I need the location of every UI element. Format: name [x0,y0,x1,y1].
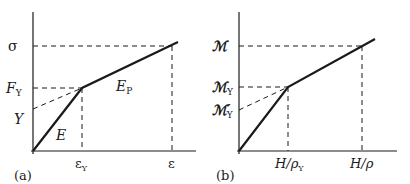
moment-curvature-curve [239,39,375,151]
label-M-prime-y: ℳ′Y [212,102,234,120]
panel-a: σ FY Y E EP εY ε (a) [5,12,196,183]
panel-tag-a: (a) [14,168,32,183]
label-My: ℳY [212,79,234,97]
mprime-intercept-extension [239,87,288,110]
bilinear-diagrams: σ FY Y E EP εY ε (a) ℳ ℳY ℳ′Y H/ρY H/ρ (… [0,0,410,184]
label-H-rho: H/ρ [349,156,374,171]
label-E: E [55,127,66,143]
label-y-intercept: Y [14,111,25,127]
label-M: ℳ [212,38,230,54]
label-fy: FY [5,80,23,98]
stress-strain-curve [33,42,178,151]
label-eps: ε [168,156,175,171]
label-eps-y: εY [75,156,88,173]
label-sigma: σ [8,38,18,54]
label-Ep: EP [115,78,132,96]
label-H-rho-y: H/ρY [274,156,304,173]
panel-tag-b: (b) [216,168,234,183]
panel-b: ℳ ℳY ℳ′Y H/ρY H/ρ (b) [212,12,397,183]
